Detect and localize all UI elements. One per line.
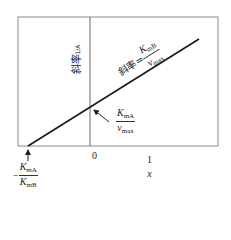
x-axis-label-den: x <box>147 166 151 179</box>
y-intercept-num: K <box>117 107 124 118</box>
y-intercept-den-sub: max <box>122 127 134 135</box>
x-axis-label-num: 1 <box>146 155 153 166</box>
y-axis-label-prefix: 斜率 <box>71 54 82 74</box>
x-intercept-label: − KmA KmB <box>13 162 38 189</box>
y-intercept-label: KmA vmax <box>116 108 135 135</box>
x-intercept-num-sub: mA <box>26 166 37 174</box>
y-intercept-num-sub: mA <box>124 112 135 120</box>
regression-line <box>28 39 199 146</box>
x-intercept-den-sub: mB <box>27 181 37 189</box>
y-axis-label-suffix: 1/A <box>74 45 81 55</box>
origin-label: 0 <box>92 150 97 161</box>
y-intercept-arrow-icon <box>94 110 109 122</box>
y-axis-label: 斜率1/A <box>68 35 83 85</box>
x-intercept-den: K <box>20 176 27 187</box>
x-axis-label: 1 x <box>146 155 153 179</box>
